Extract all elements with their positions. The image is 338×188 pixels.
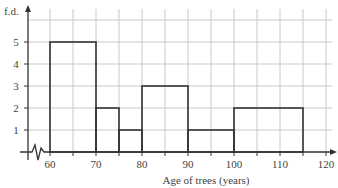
x-tick-label: 60 bbox=[45, 158, 57, 170]
x-tick-label: 110 bbox=[272, 158, 289, 170]
histogram-bars bbox=[50, 42, 303, 152]
y-tick-label: 5 bbox=[13, 36, 19, 48]
y-tick-label: 4 bbox=[13, 58, 19, 70]
y-tick-label: 3 bbox=[13, 80, 19, 92]
x-axis-label: Age of trees (years) bbox=[162, 174, 249, 187]
tick-labels: 1234560708090100110120 bbox=[13, 36, 335, 170]
y-tick-label: 2 bbox=[13, 102, 19, 114]
x-tick-label: 70 bbox=[91, 158, 103, 170]
histogram-chart: 1234560708090100110120 f.d. Age of trees… bbox=[0, 0, 338, 188]
x-tick-label: 100 bbox=[226, 158, 243, 170]
y-axis-arrow-icon bbox=[25, 5, 31, 12]
x-tick-label: 120 bbox=[318, 158, 335, 170]
x-tick-label: 90 bbox=[183, 158, 195, 170]
grid bbox=[28, 9, 332, 152]
y-axis-label: f.d. bbox=[4, 5, 19, 17]
y-tick-label: 1 bbox=[13, 124, 19, 136]
x-axis-arrow-icon bbox=[330, 149, 337, 155]
x-tick-label: 80 bbox=[137, 158, 149, 170]
axes bbox=[20, 5, 337, 160]
histogram-bar bbox=[119, 130, 142, 152]
